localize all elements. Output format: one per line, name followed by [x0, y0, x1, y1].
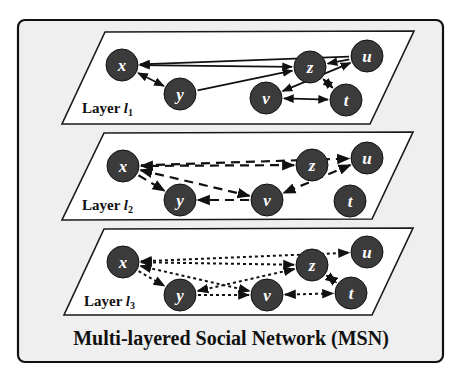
- layer-2: Layer l2xyzuvt: [62, 132, 413, 220]
- node-u: u: [351, 142, 383, 174]
- layer-3: Layer l3xyzuvt: [64, 228, 413, 315]
- svg-text:z: z: [308, 256, 316, 275]
- node-x: x: [107, 246, 139, 278]
- node-y: y: [164, 184, 196, 216]
- node-y: y: [164, 279, 196, 311]
- node-z: z: [296, 249, 328, 281]
- msn-diagram: Layer l1xyzuvtLayer l2xyzuvtLayer l3xyzu…: [0, 0, 461, 371]
- layer-label: Layer l1: [82, 100, 133, 118]
- svg-text:v: v: [263, 286, 271, 305]
- svg-text:v: v: [263, 191, 271, 210]
- layer-label: Layer l2: [82, 197, 133, 215]
- layer-1: Layer l1xyzuvt: [62, 31, 414, 124]
- svg-text:u: u: [362, 243, 371, 262]
- node-t: t: [334, 185, 366, 217]
- node-v: v: [250, 82, 282, 114]
- node-v: v: [251, 279, 283, 311]
- node-t: t: [330, 84, 362, 116]
- svg-text:y: y: [174, 286, 184, 305]
- node-u: u: [351, 40, 383, 72]
- diagram-title: Multi-layered Social Network (MSN): [73, 327, 389, 350]
- node-v: v: [251, 184, 283, 216]
- edge-v-t: [284, 98, 328, 99]
- node-t: t: [335, 277, 367, 309]
- node-u: u: [351, 236, 383, 268]
- svg-text:x: x: [118, 253, 128, 272]
- svg-text:u: u: [362, 47, 371, 66]
- svg-text:y: y: [174, 85, 184, 104]
- svg-text:x: x: [117, 56, 127, 75]
- node-x: x: [106, 49, 138, 81]
- svg-text:v: v: [262, 89, 270, 108]
- svg-text:y: y: [174, 191, 184, 210]
- svg-text:z: z: [306, 58, 314, 77]
- node-z: z: [296, 149, 328, 181]
- layers-group: Layer l1xyzuvtLayer l2xyzuvtLayer l3xyzu…: [62, 31, 414, 315]
- layer-label: Layer l3: [84, 293, 135, 311]
- node-y: y: [164, 78, 196, 110]
- svg-text:z: z: [308, 156, 316, 175]
- node-z: z: [294, 51, 326, 83]
- node-x: x: [107, 150, 139, 182]
- svg-text:x: x: [118, 157, 128, 176]
- svg-text:u: u: [362, 149, 371, 168]
